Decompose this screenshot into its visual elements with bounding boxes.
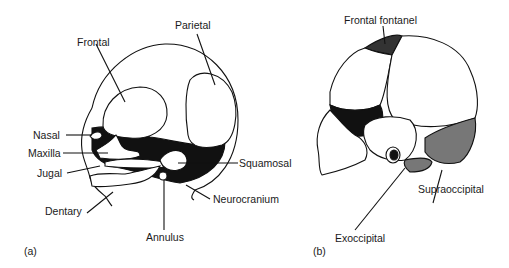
label-squamosal: Squamosal <box>239 157 292 169</box>
skull-b-drawing <box>317 26 477 230</box>
label-annulus: Annulus <box>146 231 184 243</box>
label-dentary: Dentary <box>45 205 82 217</box>
label-neurocranium: Neurocranium <box>213 193 279 205</box>
label-frontal: Frontal <box>77 36 110 48</box>
label-maxilla: Maxilla <box>28 147 61 159</box>
label-frontal-fontanel: Frontal fontanel <box>344 14 417 26</box>
skull-a-drawing <box>63 34 238 230</box>
label-jugal: Jugal <box>37 167 62 179</box>
panel-b-tag: (b) <box>313 245 326 257</box>
panel-a-tag: (a) <box>24 245 37 257</box>
label-supraoccipital: Supraoccipital <box>418 183 484 195</box>
label-exoccipital: Exoccipital <box>335 232 385 244</box>
label-parietal: Parietal <box>175 19 211 31</box>
label-nasal: Nasal <box>33 129 60 141</box>
